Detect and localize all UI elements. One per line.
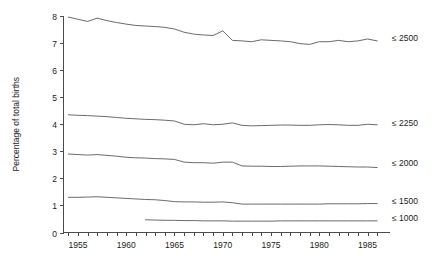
y-axis-ticks bbox=[60, 17, 64, 234]
series-label-1: ≤ 2250 bbox=[392, 118, 418, 128]
x-axis-tick-labels: 1955196019651970197519801985 bbox=[69, 240, 378, 250]
y-tick-label: 4 bbox=[52, 120, 57, 130]
x-tick-label: 1980 bbox=[310, 240, 329, 250]
y-tick-label: 1 bbox=[52, 201, 57, 211]
y-tick-label: 8 bbox=[52, 12, 57, 22]
x-tick-label: 1965 bbox=[165, 240, 184, 250]
y-axis-tick-labels: 012345678 bbox=[52, 12, 57, 239]
series-line-2 bbox=[68, 154, 377, 168]
series-line-4 bbox=[146, 220, 378, 221]
y-tick-label: 2 bbox=[52, 174, 57, 184]
series-label-2: ≤ 2000 bbox=[392, 158, 418, 168]
y-tick-label: 3 bbox=[52, 147, 57, 157]
y-tick-label: 7 bbox=[52, 39, 57, 49]
x-tick-label: 1955 bbox=[69, 240, 88, 250]
x-tick-label: 1975 bbox=[262, 240, 281, 250]
x-axis-ticks bbox=[69, 233, 378, 237]
series-line-0 bbox=[68, 17, 377, 44]
chart-container: Percentage of total births 012345678 195… bbox=[0, 0, 441, 265]
series-line-3 bbox=[68, 197, 377, 204]
series-labels-group: ≤ 2500≤ 2250≤ 2000≤ 1500≤ 1000 bbox=[392, 33, 418, 224]
y-axis-title: Percentage of total births bbox=[11, 77, 21, 172]
y-tick-label: 0 bbox=[52, 229, 57, 239]
series-label-0: ≤ 2500 bbox=[392, 33, 418, 43]
x-tick-label: 1960 bbox=[117, 240, 136, 250]
x-tick-label: 1970 bbox=[213, 240, 232, 250]
x-tick-label: 1985 bbox=[358, 240, 377, 250]
birth-weight-percentage-line-chart: Percentage of total births 012345678 195… bbox=[0, 0, 441, 265]
y-axis-title-label: Percentage of total births bbox=[11, 77, 21, 172]
series-label-4: ≤ 1000 bbox=[392, 213, 418, 223]
series-label-3: ≤ 1500 bbox=[392, 196, 418, 206]
y-tick-label: 6 bbox=[52, 66, 57, 76]
series-line-1 bbox=[68, 115, 377, 126]
y-tick-label: 5 bbox=[52, 93, 57, 103]
series-lines-group bbox=[68, 17, 377, 221]
